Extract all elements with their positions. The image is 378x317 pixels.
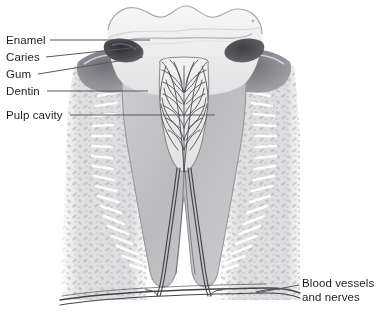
label-pulp-cavity: Pulp cavity [6,109,63,122]
label-dentin: Dentin [6,85,40,98]
label-enamel: Enamel [6,34,46,47]
label-blood-vessels-and-nerves: Blood vessels and nerves [302,277,378,304]
label-blood-vessels-line2: and nerves [302,291,360,303]
label-blood-vessels-line1: Blood vessels [302,277,374,289]
label-gum: Gum [6,68,31,81]
label-caries: Caries [6,51,40,64]
